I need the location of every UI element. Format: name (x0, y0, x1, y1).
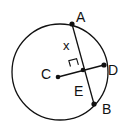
label-d: D (108, 62, 118, 78)
right-angle-marker (69, 59, 79, 67)
label-c: C (41, 66, 51, 82)
point-b (91, 101, 96, 106)
point-a (69, 21, 74, 26)
label-b: B (102, 101, 111, 117)
point-c (56, 75, 61, 80)
label-x: x (63, 38, 70, 53)
circle-chord-diagram: A B C D E x (0, 0, 125, 129)
point-d (101, 62, 106, 67)
label-a: A (76, 9, 86, 25)
label-e: E (74, 83, 83, 99)
point-e (81, 68, 86, 73)
